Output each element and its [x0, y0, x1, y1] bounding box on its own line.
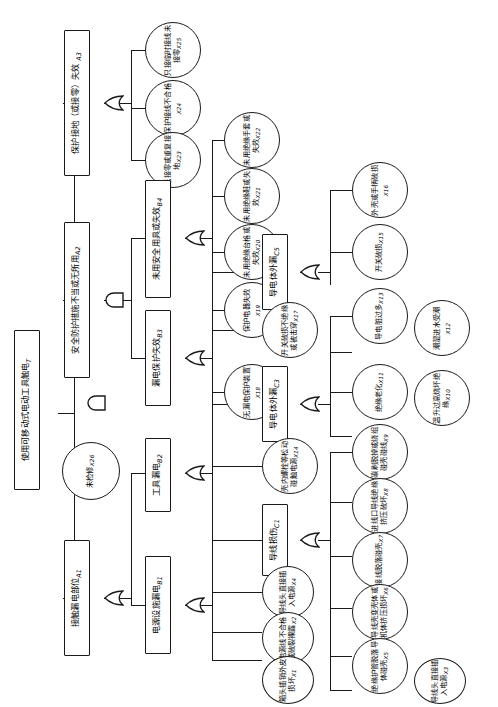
connector [212, 232, 213, 562]
node-label: 导电脏过多X13 [375, 290, 385, 342]
connector [212, 466, 262, 467]
node-X25[interactable]: 只接临时接线未接零X25 [145, 22, 201, 78]
node-X10[interactable]: 温升过高烧坏绝缘X10 [414, 370, 470, 426]
node-B3[interactable]: 漏电保护失效B3 [145, 310, 171, 406]
node-X3[interactable]: 导线头直接插入电源X3 [414, 658, 466, 704]
connector [212, 540, 213, 660]
connector [330, 352, 352, 353]
node-X6[interactable]: 导线壳变壳体或机体挤压损坏X6 [352, 584, 408, 640]
node-X22[interactable]: 未用绝缘手套或失效X22 [224, 112, 280, 168]
node-A2[interactable]: 安全防护措施不当或无所用A2 [64, 222, 90, 378]
node-X24[interactable]: 保护接线不合格X24 [145, 80, 201, 136]
connector [212, 310, 224, 311]
connector [330, 608, 352, 609]
node-label: 工具漏电B2 [152, 454, 164, 496]
node-X11[interactable]: 绝缘老化X11 [352, 364, 408, 420]
connector [212, 140, 224, 141]
node-label: 潮湿进水受潮X12 [433, 302, 452, 354]
connector [131, 238, 132, 358]
or-gate-A1 [104, 590, 124, 606]
connector [330, 502, 352, 503]
connector [330, 190, 331, 285]
or-gate-C3 [300, 396, 320, 412]
or-gate-C5 [300, 264, 320, 280]
node-X14[interactable]: 壳内螺栓等松动碰触电源X14 [262, 438, 318, 494]
node-A1[interactable]: 接触漏电部位A1 [64, 540, 90, 656]
node-label: 碳刷脱掉或绕组碰壳碰线X9 [371, 426, 390, 478]
node-X26[interactable]: 未检修X26 [62, 442, 120, 500]
connector [212, 660, 262, 661]
node-label: 未用绝缘鞋或失效X21 [243, 170, 262, 222]
node-C5[interactable]: 导电体外漏C5 [262, 234, 288, 310]
node-label: 导线头直接插入电源X4 [279, 567, 298, 617]
connector [131, 358, 145, 359]
connector [330, 392, 352, 393]
node-B2[interactable]: 工具漏电B2 [145, 438, 171, 512]
or-gate-B4 [185, 230, 205, 246]
node-X17[interactable]: 开关破损不绝缘或被击穿X17 [262, 302, 318, 358]
node-label: 绝缘老化X11 [375, 366, 385, 418]
connector [212, 632, 262, 633]
node-label: 开关破损X15 [375, 226, 385, 278]
node-label: 导线壳变壳体或机体挤压损坏X6 [371, 586, 390, 638]
connector [131, 50, 145, 51]
node-label: 接触漏电部位A1 [71, 569, 83, 627]
node-X21[interactable]: 未用绝缘鞋或失效X21 [224, 168, 280, 224]
node-label: 未用安全用具或失效B4 [152, 198, 164, 281]
or-gate-A3 [104, 95, 124, 111]
node-X12[interactable]: 潮湿进水受潮X12 [414, 300, 470, 356]
connector [330, 690, 352, 691]
or-gate-C1 [300, 532, 320, 548]
connector [212, 252, 224, 253]
node-X15[interactable]: 开关破损X15 [352, 224, 408, 280]
connector [131, 108, 145, 109]
connector [330, 316, 331, 436]
node-label: 保护接线不合格X24 [164, 82, 183, 134]
connector [131, 238, 145, 239]
node-X5[interactable]: 绝缘护管脱落导体碰壳X5 [352, 638, 408, 694]
node-label: 漏电保护失效B3 [152, 329, 164, 387]
node-T[interactable]: 使用可移动式电动工具触电T [14, 330, 40, 490]
node-label: 壳内螺栓等松动碰触电源X14 [281, 440, 300, 492]
node-label: 未用绝缘手套或失效X22 [243, 114, 262, 166]
node-B1[interactable]: 电源设施漏电B1 [145, 556, 171, 654]
node-A3[interactable]: 保护接地（或接零）失效 A3 [64, 30, 90, 176]
node-label: 进线口导线绝缘挤压破坏X8 [371, 480, 390, 532]
node-B4[interactable]: 未用安全用具或失效B4 [145, 180, 171, 298]
node-label: 无接零或重复接地X23 [164, 134, 183, 186]
connector [131, 160, 145, 161]
node-X9[interactable]: 碳刷脱掉或绕组碰壳碰线X9 [352, 424, 408, 480]
node-label: 保护电器失效X19 [243, 284, 262, 336]
connector [212, 592, 262, 593]
connector [330, 656, 352, 657]
node-X7[interactable]: 接线脱落碰壳X7 [352, 532, 408, 588]
connector [330, 190, 352, 191]
node-label: 使用可移动式电动工具触电T [21, 359, 33, 462]
node-label: 导线头直接插入电源X3 [431, 658, 450, 704]
connector [330, 316, 352, 317]
node-X8[interactable]: 进线口导线绝缘挤压破坏X8 [352, 478, 408, 534]
connector [330, 252, 352, 253]
node-X16[interactable]: 外壳或手柄破损X16 [352, 162, 408, 218]
node-X13[interactable]: 导电脏过多X13 [352, 288, 408, 344]
or-gate-B1 [185, 597, 205, 613]
and-gate-A2 [104, 292, 124, 308]
node-label: 无漏电保护装置X18 [243, 366, 262, 418]
node-label: 箱头插销外皮损坏X1 [279, 656, 298, 704]
node-C3[interactable]: 导电体外漏C3 [262, 366, 288, 442]
node-label: 接线脱落碰壳X7 [375, 534, 385, 586]
node-label: 未检修X26 [86, 443, 96, 499]
connector [58, 413, 75, 414]
fault-tree-diagram: 使用可移动式电动工具触电T 保护接地（或接零）失效 A3 安全防护措施不当或无所… [0, 0, 498, 707]
connector [131, 473, 145, 474]
or-gate-B3 [185, 350, 205, 366]
connector [330, 452, 352, 453]
connector [131, 473, 132, 605]
connector [212, 392, 224, 393]
node-label: 导电体外漏C3 [269, 379, 281, 429]
node-X4[interactable]: 导线头直接插入电源X4 [262, 566, 314, 618]
node-label: 电源设施漏电B1 [152, 576, 164, 634]
node-X1[interactable]: 箱头插销外皮损坏X1 [262, 656, 314, 704]
connector [212, 540, 262, 541]
node-label: 开关破损不绝缘或被击穿X17 [281, 304, 300, 356]
